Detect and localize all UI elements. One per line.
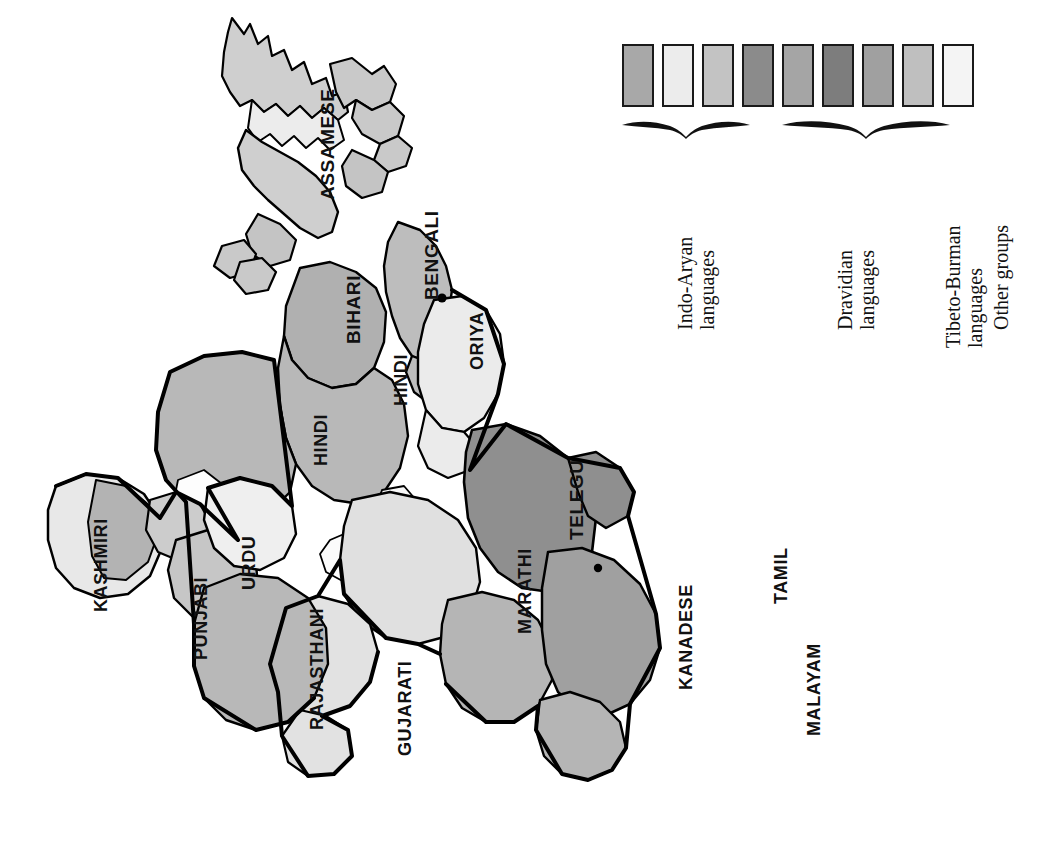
language-map-figure: ASSAMESE BENGALI BIHARI HINDI ORIYA HIND…	[0, 0, 1047, 867]
legend-label-dravidian: Dravidian languages	[834, 250, 879, 330]
legend-label-tibeto-burman-line1: Tibeto-Burman	[942, 225, 964, 348]
region-northeast-hills-a	[330, 58, 396, 110]
region-assamese-north	[222, 18, 348, 120]
legend-swatch-row	[622, 44, 974, 107]
legend-label-tibeto-burman: Tibeto-Burman languages	[942, 225, 987, 348]
legend-label-other-groups-line1: Other groups	[990, 225, 1012, 330]
legend-swatch-6	[822, 44, 854, 107]
legend-label-indo-aryan-line1: Indo-Aryan	[674, 237, 696, 330]
legend-swatch-9	[942, 44, 974, 107]
legend-label-indo-aryan-line2: languages	[696, 237, 718, 330]
legend-swatch-1	[622, 44, 654, 107]
legend-swatch-4	[742, 44, 774, 107]
legend-swatch-3	[702, 44, 734, 107]
legend-label-dravidian-line2: languages	[856, 250, 878, 330]
legend-swatch-8	[902, 44, 934, 107]
legend-label-other-groups: Other groups	[990, 225, 1012, 330]
legend-label-indo-aryan: Indo-Aryan languages	[674, 237, 719, 330]
brace-indo-aryan	[620, 116, 752, 142]
legend-label-dravidian-line1: Dravidian	[834, 250, 856, 330]
map-label-malayam: MALAYAM	[805, 643, 823, 736]
legend-swatch-7	[862, 44, 894, 107]
city-dot-kolkata	[437, 293, 446, 302]
legend-swatch-2	[662, 44, 694, 107]
legend: Indo-Aryan languages Dravidian languages…	[612, 30, 1032, 350]
map-container: ASSAMESE BENGALI BIHARI HINDI ORIYA HIND…	[0, 0, 700, 867]
region-kanadese	[440, 592, 552, 722]
legend-label-tibeto-burman-line2: languages	[964, 225, 986, 348]
map-label-tamil: TAMIL	[772, 547, 790, 604]
city-dot-chennai	[594, 564, 602, 572]
brace-dravidian	[780, 116, 952, 142]
india-language-map	[0, 0, 700, 867]
legend-swatch-5	[782, 44, 814, 107]
